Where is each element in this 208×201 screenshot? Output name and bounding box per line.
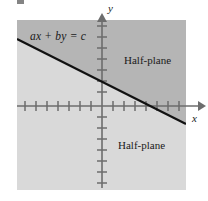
x-axis-label: x [192,113,197,124]
y-axis-arrowhead [97,13,107,22]
y-axis-label: y [108,3,113,14]
equation-label: ax + by = c [30,31,86,43]
half-plane-label-upper: Half-plane [124,55,171,66]
half-plane-label-lower: Half-plane [118,140,165,151]
x-axis-arrowhead [198,101,206,111]
half-plane-figure: ax + by = c y x Half-plane Half-plane [0,0,208,201]
